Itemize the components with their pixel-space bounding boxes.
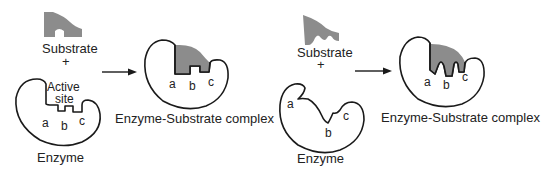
substrate-shape-right bbox=[303, 15, 339, 45]
complex-site-label-a-right: a bbox=[424, 75, 431, 89]
enzyme-label-left: Enzyme bbox=[37, 150, 84, 165]
right-panel: Substrate + a b c Enzyme a b c Enzyme-Su… bbox=[280, 15, 541, 166]
complex-label-left: Enzyme-Substrate complex bbox=[115, 111, 274, 126]
site-label-a-left: a bbox=[42, 116, 49, 130]
plus-sign-right: + bbox=[317, 57, 325, 72]
substrate-label-left: Substrate bbox=[42, 41, 98, 56]
active-site-label-line2: site bbox=[55, 92, 74, 106]
substrate-label-right: Substrate bbox=[297, 45, 353, 60]
site-label-c-left: c bbox=[79, 114, 85, 128]
site-label-b-right: b bbox=[325, 126, 332, 140]
left-panel: Substrate + Active site a b c Enzyme a b… bbox=[16, 12, 275, 165]
enzyme-diagram: Substrate + Active site a b c Enzyme a b… bbox=[0, 0, 541, 179]
complex-site-label-a-left: a bbox=[169, 77, 176, 91]
complex-site-label-c-right: c bbox=[462, 70, 468, 84]
enzyme-label-right: Enzyme bbox=[297, 151, 344, 166]
plus-sign-left: + bbox=[62, 54, 70, 69]
arrow-head-right-icon bbox=[383, 68, 392, 75]
complex-site-label-c-left: c bbox=[208, 75, 214, 89]
site-label-a-right: a bbox=[287, 97, 294, 111]
complex-label-right: Enzyme-Substrate complex bbox=[381, 110, 540, 125]
site-label-b-left: b bbox=[61, 119, 68, 133]
complex-site-label-b-right: b bbox=[443, 78, 450, 92]
substrate-shape-left bbox=[44, 12, 82, 37]
arrow-head-left-icon bbox=[128, 69, 137, 76]
site-label-c-right: c bbox=[343, 109, 349, 123]
complex-site-label-b-left: b bbox=[189, 79, 196, 93]
enzyme-shape-right bbox=[280, 84, 364, 153]
